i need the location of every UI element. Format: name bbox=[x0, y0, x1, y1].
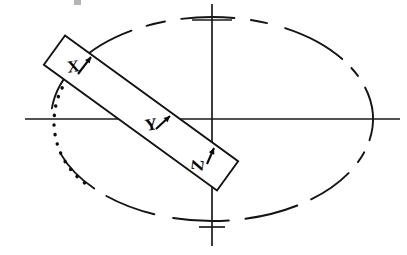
dotted-arc-group bbox=[54, 80, 89, 186]
ellipse-dash-segment bbox=[311, 173, 348, 199]
ellipse-dash-segment bbox=[61, 154, 95, 189]
dotted-arc bbox=[54, 80, 89, 186]
axis-group bbox=[25, 4, 400, 246]
ellipse-dash-segment bbox=[251, 20, 267, 23]
ellipse-dash-segment bbox=[365, 87, 373, 140]
ellipse-dash-segment bbox=[106, 196, 154, 214]
ellipse-dash-segment bbox=[285, 28, 342, 59]
figure-canvas: XYZ bbox=[0, 0, 407, 255]
technical-diagram-svg: XYZ bbox=[0, 0, 407, 255]
ellipse-dash-segment bbox=[147, 21, 165, 25]
ellipse-dash-segment bbox=[351, 68, 357, 76]
ellipse-dash-segment bbox=[358, 152, 364, 162]
ellipse-dash-segment bbox=[245, 206, 297, 219]
ellipse-dash-segment bbox=[173, 218, 229, 221]
ellipse-dash-segment bbox=[181, 17, 234, 19]
